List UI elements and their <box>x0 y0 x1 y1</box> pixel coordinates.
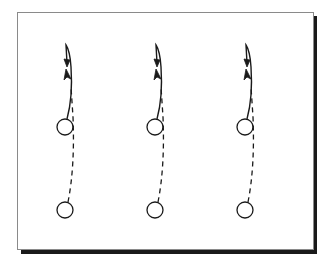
unit-1 <box>57 45 73 218</box>
diagram-canvas <box>0 0 332 264</box>
unit-2 <box>147 45 163 218</box>
play-unit-2 <box>147 45 163 218</box>
play-unit-3 <box>237 45 253 218</box>
unit-3 <box>237 45 253 218</box>
play-unit-1 <box>57 45 73 218</box>
